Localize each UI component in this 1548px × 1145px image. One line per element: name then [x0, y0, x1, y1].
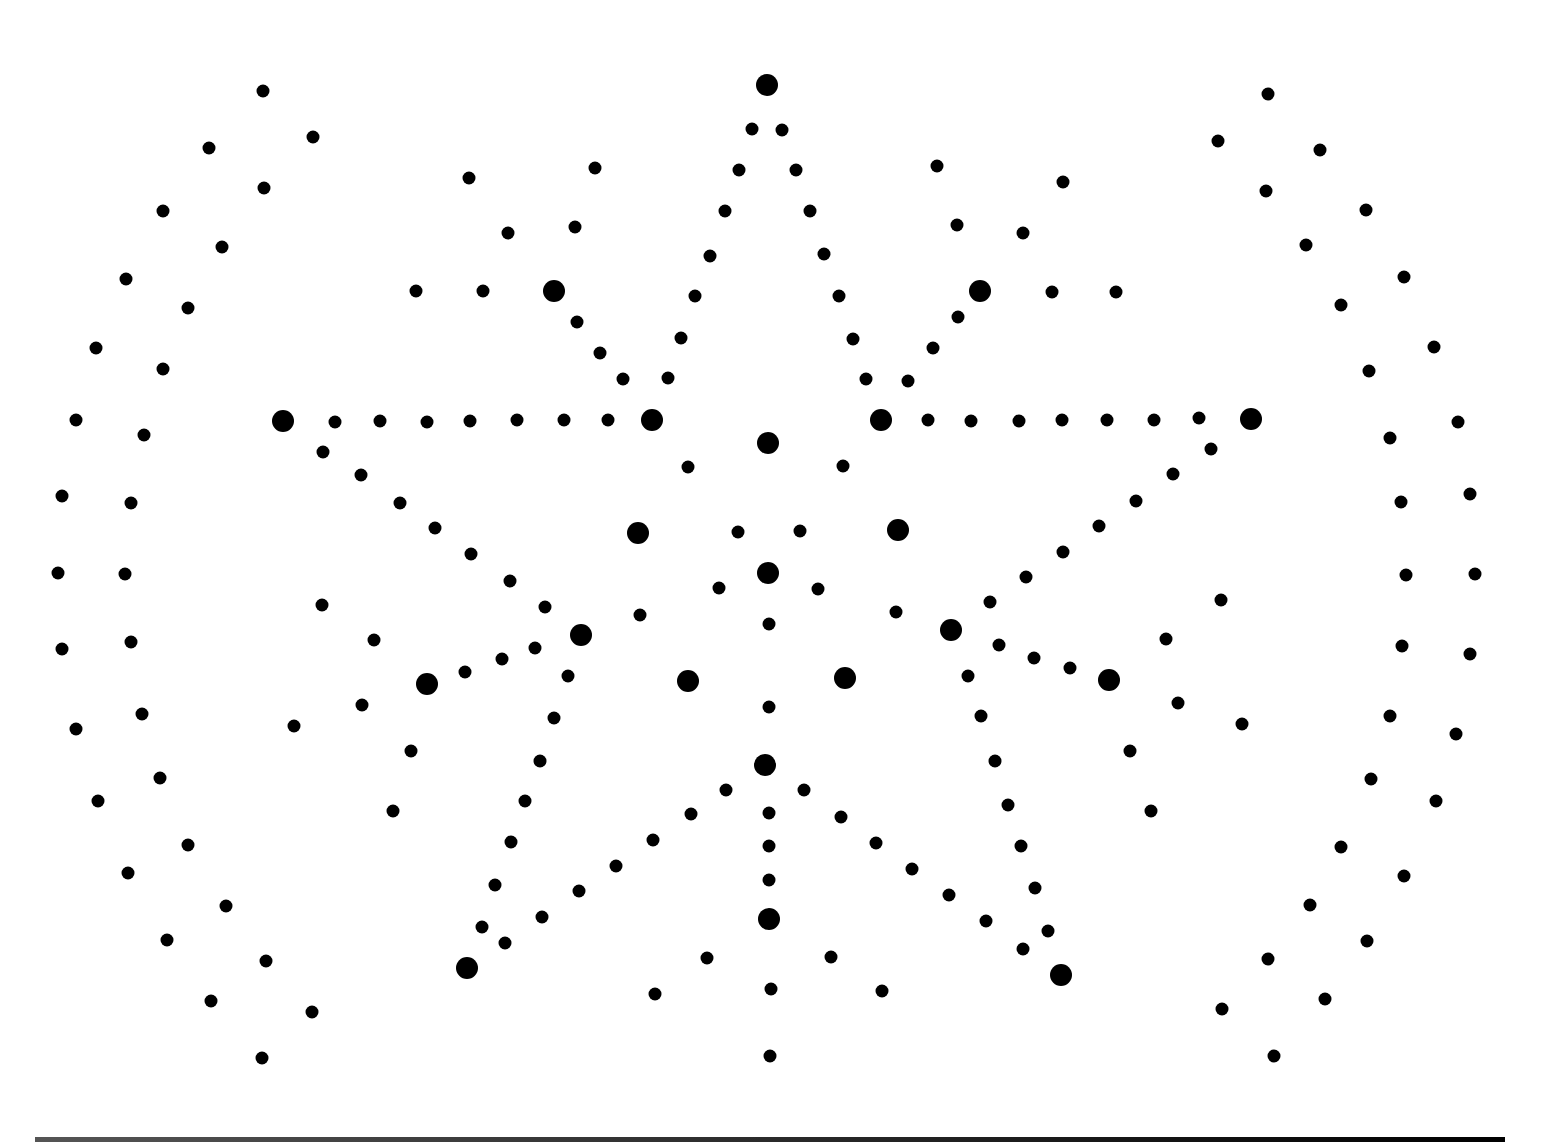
- large-dot: [754, 754, 776, 776]
- small-dot: [825, 951, 838, 964]
- footer-rule: [35, 1137, 1505, 1142]
- small-dot: [1215, 594, 1228, 607]
- small-dot: [1205, 443, 1218, 456]
- small-dot: [1464, 488, 1477, 501]
- small-dot: [733, 164, 746, 177]
- small-dot: [634, 609, 647, 622]
- small-dot: [154, 772, 167, 785]
- small-dot: [812, 583, 825, 596]
- small-dot: [92, 795, 105, 808]
- small-dot: [701, 952, 714, 965]
- small-dot: [573, 885, 586, 898]
- small-dot: [136, 708, 149, 721]
- large-dot: [757, 562, 779, 584]
- small-dot: [720, 784, 733, 797]
- small-dot: [1398, 870, 1411, 883]
- large-dot: [969, 280, 991, 302]
- small-dot: [763, 874, 776, 887]
- small-dot: [993, 639, 1006, 652]
- small-dot: [965, 415, 978, 428]
- small-dot: [317, 446, 330, 459]
- small-dot: [989, 755, 1002, 768]
- small-dot: [1319, 993, 1332, 1006]
- dot-pattern-canvas: [0, 0, 1548, 1145]
- small-dot: [1268, 1050, 1281, 1063]
- small-dot: [713, 582, 726, 595]
- small-dot: [876, 985, 889, 998]
- small-dot: [962, 670, 975, 683]
- small-dot: [906, 863, 919, 876]
- small-dot: [719, 205, 732, 218]
- small-dot: [1384, 710, 1397, 723]
- small-dot: [1172, 697, 1185, 710]
- small-dot: [1430, 795, 1443, 808]
- small-dot: [1262, 88, 1275, 101]
- large-dot: [870, 409, 892, 431]
- small-dot: [980, 915, 993, 928]
- small-dot: [56, 490, 69, 503]
- small-dot: [1056, 414, 1069, 427]
- small-dot: [1360, 204, 1373, 217]
- small-dot: [1335, 841, 1348, 854]
- large-dot: [677, 670, 699, 692]
- small-dot: [1400, 569, 1413, 582]
- small-dot: [1398, 271, 1411, 284]
- small-dot: [682, 461, 695, 474]
- small-dot: [220, 900, 233, 913]
- small-dot: [410, 285, 423, 298]
- small-dot: [902, 375, 915, 388]
- small-dot: [1046, 286, 1059, 299]
- small-dot: [459, 666, 472, 679]
- small-dot: [798, 784, 811, 797]
- small-dot: [870, 837, 883, 850]
- small-dot: [685, 808, 698, 821]
- small-dot: [489, 879, 502, 892]
- small-dot: [477, 285, 490, 298]
- small-dot: [1145, 805, 1158, 818]
- small-dot: [704, 250, 717, 263]
- small-dot: [763, 618, 776, 631]
- small-dot: [589, 162, 602, 175]
- small-dot: [1300, 239, 1313, 252]
- small-dot: [763, 807, 776, 820]
- small-dot: [1017, 227, 1030, 240]
- small-dot: [943, 889, 956, 902]
- large-dot: [627, 522, 649, 544]
- small-dot: [463, 172, 476, 185]
- large-dot: [543, 280, 565, 302]
- large-dot: [758, 908, 780, 930]
- small-dot: [260, 955, 273, 968]
- large-dot: [1098, 669, 1120, 691]
- small-dot: [931, 160, 944, 173]
- small-dot: [548, 712, 561, 725]
- small-dot: [539, 601, 552, 614]
- small-dot: [647, 834, 660, 847]
- small-dot: [818, 248, 831, 261]
- small-dot: [837, 460, 850, 473]
- small-dot: [1216, 1003, 1229, 1016]
- small-dot: [70, 723, 83, 736]
- small-dot: [1363, 365, 1376, 378]
- small-dot: [833, 290, 846, 303]
- small-dot: [387, 805, 400, 818]
- small-dot: [1020, 571, 1033, 584]
- small-dot: [405, 745, 418, 758]
- small-dot: [90, 342, 103, 355]
- small-dot: [536, 911, 549, 924]
- large-dot: [1240, 408, 1262, 430]
- small-dot: [257, 85, 270, 98]
- small-dot: [558, 414, 571, 427]
- small-dot: [1148, 414, 1161, 427]
- small-dot: [763, 701, 776, 714]
- small-dot: [1015, 840, 1028, 853]
- small-dot: [182, 839, 195, 852]
- small-dot: [1028, 652, 1041, 665]
- large-dot: [756, 74, 778, 96]
- small-dot: [1365, 773, 1378, 786]
- small-dot: [984, 596, 997, 609]
- small-dot: [182, 302, 195, 315]
- small-dot: [1002, 799, 1015, 812]
- small-dot: [203, 142, 216, 155]
- small-dot: [465, 548, 478, 561]
- small-dot: [138, 429, 151, 442]
